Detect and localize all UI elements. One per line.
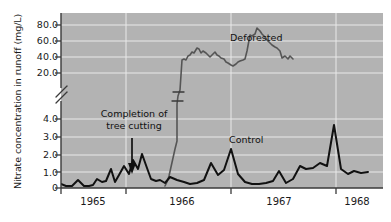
plot-area xyxy=(0,0,391,222)
plot-background xyxy=(61,13,383,188)
series-label-control: Control xyxy=(229,134,263,146)
x-axis-ticks xyxy=(61,188,336,194)
annotation-line-2: tree cutting xyxy=(86,120,182,132)
chart-figure: Nitrate concentration in runoff (mg/L) 8… xyxy=(0,0,391,222)
y-axis-ticks xyxy=(55,25,61,188)
series-label-deforested: Deforested xyxy=(230,32,282,44)
annotation-completion-of-tree-cutting: Completion of tree cutting xyxy=(86,108,182,131)
annotation-line-1: Completion of xyxy=(86,108,182,120)
